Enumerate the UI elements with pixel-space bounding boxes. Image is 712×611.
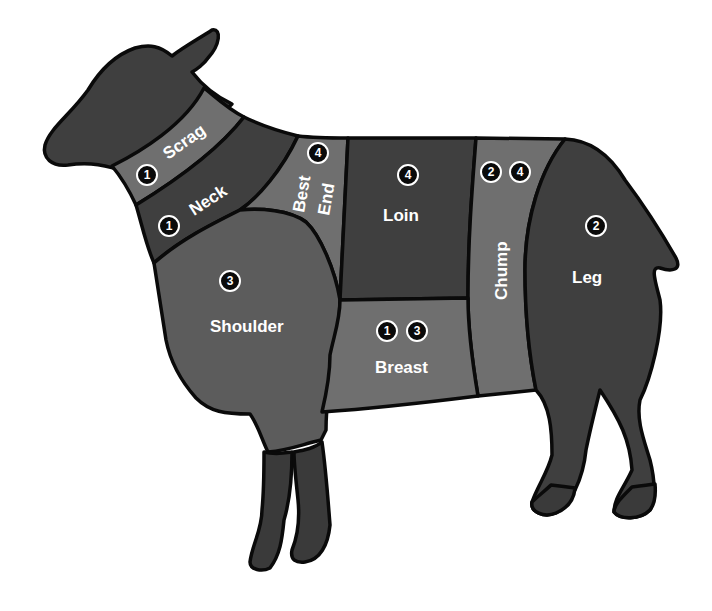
svg-text:3: 3 bbox=[414, 324, 421, 338]
svg-text:4: 4 bbox=[315, 146, 322, 160]
svg-text:2: 2 bbox=[593, 219, 600, 233]
badge-loin-4: 4 bbox=[398, 165, 418, 185]
svg-text:2: 2 bbox=[488, 165, 495, 179]
front-shank-right bbox=[292, 442, 330, 562]
svg-text:1: 1 bbox=[384, 324, 391, 338]
svg-text:4: 4 bbox=[405, 168, 412, 182]
label-loin: Loin bbox=[383, 206, 419, 225]
badge-chump-2: 2 bbox=[481, 162, 501, 182]
badge-shoulder-3: 3 bbox=[220, 271, 240, 291]
badge-chump-4: 4 bbox=[510, 162, 530, 182]
cut-breast[interactable] bbox=[322, 298, 478, 412]
cut-leg[interactable] bbox=[525, 139, 678, 518]
svg-text:1: 1 bbox=[144, 168, 151, 182]
front-shank-left bbox=[250, 452, 292, 570]
badge-scrag-1: 1 bbox=[137, 165, 157, 185]
label-breast: Breast bbox=[375, 358, 428, 377]
svg-text:4: 4 bbox=[517, 165, 524, 179]
badge-breast-3: 3 bbox=[407, 321, 427, 341]
label-leg: Leg bbox=[572, 268, 602, 287]
label-chump: Chump bbox=[492, 241, 511, 300]
badge-leg-2: 2 bbox=[586, 216, 606, 236]
badge-best-end-4: 4 bbox=[308, 143, 328, 163]
badge-breast-1: 1 bbox=[377, 321, 397, 341]
label-shoulder: Shoulder bbox=[210, 317, 284, 336]
svg-text:3: 3 bbox=[227, 274, 234, 288]
badge-neck-1: 1 bbox=[159, 216, 179, 236]
lamb-cuts-diagram: Scrag Neck Best End Loin Chump Leg Shoul… bbox=[0, 0, 712, 611]
svg-text:1: 1 bbox=[166, 219, 173, 233]
